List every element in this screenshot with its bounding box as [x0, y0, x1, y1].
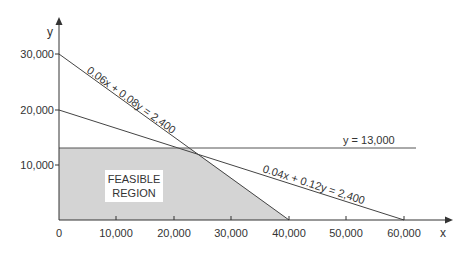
- x-tick-label: 10,000: [99, 227, 133, 239]
- feasible-region-chart: 10,000 20,000 30,000 0 10,000 20,000 30,…: [0, 0, 469, 257]
- line2-label: 0.04x + 0.12y = 2,400: [261, 162, 366, 206]
- x-tick-label: 60,000: [387, 227, 421, 239]
- line1-label: 0.06x + 0.08y = 2,400: [85, 64, 178, 136]
- region-label-line1: FEASIBLE: [108, 173, 161, 185]
- x-tick-label: 50,000: [329, 227, 363, 239]
- x-tick-label: 30,000: [214, 227, 248, 239]
- x-tick-label: 20,000: [157, 227, 191, 239]
- y-axis-label: y: [47, 25, 53, 39]
- line3-label: y = 13,000: [343, 134, 395, 146]
- y-tick-label: 30,000: [20, 48, 54, 60]
- x-axis-arrow-icon: [445, 217, 453, 224]
- x-tick-label: 40,000: [272, 227, 306, 239]
- x-axis-label: x: [440, 226, 446, 240]
- region-label-line2: REGION: [112, 187, 155, 199]
- x-tick-label: 0: [56, 227, 62, 239]
- feasible-region: [59, 148, 289, 220]
- y-axis-arrow-icon: [56, 17, 63, 25]
- y-tick-label: 20,000: [20, 104, 54, 116]
- y-tick-label: 10,000: [20, 159, 54, 171]
